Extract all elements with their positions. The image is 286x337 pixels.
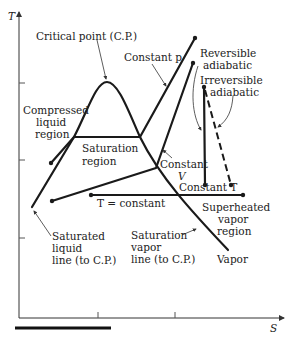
superheated-label-3: region xyxy=(217,225,252,237)
constant-t-start-dot xyxy=(89,193,93,197)
constant-v-line xyxy=(52,63,193,201)
compressed-liquid-label-3: region xyxy=(35,128,70,140)
compressed-liquid-label-2: liquid xyxy=(36,116,67,128)
irreversible-adiabatic-line xyxy=(205,90,231,185)
reversible-adiabatic-line xyxy=(204,87,205,185)
constant-p-leader xyxy=(152,64,166,86)
irreversible-adiabatic-leader xyxy=(218,96,233,127)
superheated-label-2: vapor xyxy=(217,213,249,225)
critical-point-leader xyxy=(97,40,106,79)
constant-t-end-dot xyxy=(241,193,245,197)
t-constant-label: T = constant xyxy=(97,197,166,209)
x-axis-label: S xyxy=(270,322,277,334)
saturation-vapor-label-2: vapor xyxy=(130,241,162,253)
constant-p-end-dot xyxy=(193,36,197,40)
reversible-adiabatic-label: Reversible xyxy=(200,47,256,59)
irreversible-adiabatic-label: Irreversible xyxy=(200,74,263,86)
critical-point-label: Critical point (C.P.) xyxy=(36,30,137,42)
saturated-liquid-label-2: liquid xyxy=(52,242,83,254)
saturated-liquid-leader xyxy=(34,211,51,236)
saturation-vapor-label: Saturation xyxy=(131,229,188,241)
constant-v-label: Constant xyxy=(160,158,209,170)
constant-p-start-dot xyxy=(49,161,53,165)
constant-v-leader xyxy=(163,150,172,158)
reversible-adiabatic-label-2: adiabatic xyxy=(203,59,252,71)
constant-v-end-dot xyxy=(191,61,195,65)
saturation-region-label-2: region xyxy=(82,155,117,167)
saturation-region-label: Saturation xyxy=(82,142,139,154)
irreversible-adiabatic-label-2: adiabatic xyxy=(210,86,259,98)
constant-t-right-label: Constant T xyxy=(179,181,237,193)
compressed-liquid-label: Compressed xyxy=(23,104,89,116)
constant-p-label: Constant p xyxy=(124,51,182,63)
constant-v-start-dot xyxy=(50,199,54,203)
vapor-label: Vapor xyxy=(216,253,249,265)
y-axis-label: T xyxy=(8,10,16,22)
saturated-liquid-label: Saturated xyxy=(52,230,105,242)
saturation-vapor-label-3: line (to C.P.) xyxy=(131,253,195,265)
ts-diagram: T S Critical point (C.P.) Constant p Rev… xyxy=(0,0,286,337)
superheated-label: Superheated xyxy=(202,201,271,213)
saturated-liquid-label-3: line (to C.P.) xyxy=(52,254,116,266)
